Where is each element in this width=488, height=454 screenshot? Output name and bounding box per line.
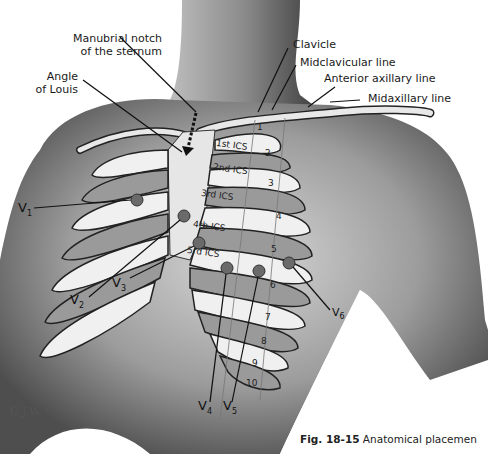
label-lead-v5: V5: [223, 398, 237, 416]
label-lead-v2: V2: [70, 292, 84, 310]
rib-number-10: 10: [246, 378, 257, 388]
figure-caption: Fig. 18-15 Anatomical placemen: [300, 433, 477, 445]
lead-name: V: [223, 398, 232, 413]
electrode-v5: [253, 265, 265, 277]
label-angle-line1: Angle: [30, 70, 78, 83]
lead-sub: 3: [121, 284, 126, 293]
rib-number-8: 8: [261, 336, 267, 346]
lead-sub: 1: [27, 209, 32, 218]
label-lead-v1: V1: [18, 200, 32, 218]
rib-number-1: 1: [257, 122, 263, 132]
label-clavicle: Clavicle: [293, 38, 336, 51]
lead-name: V: [18, 200, 27, 215]
rib-number-5: 5: [271, 244, 277, 254]
lead-sub: 5: [232, 407, 237, 416]
label-midclavicular-line: Midclavicular line: [300, 56, 396, 69]
rib-number-4: 4: [276, 211, 282, 221]
label-manubrial-line1: Manubrial notch: [66, 32, 162, 45]
torso-illustration: [0, 0, 488, 454]
lead-sub: 6: [340, 312, 345, 321]
rib-number-2: 2: [265, 148, 271, 158]
electrode-v4: [221, 262, 233, 274]
lead-name: V: [332, 306, 340, 319]
label-manubrial-notch: Manubrial notch of the sternum: [66, 32, 162, 58]
rib-number-3: 3: [268, 178, 274, 188]
artist-signature: G.J.W.: [10, 405, 42, 418]
lead-name: V: [70, 292, 79, 307]
label-lead-v6: V6: [332, 306, 345, 321]
label-anterior-axillary-line: Anterior axillary line: [324, 72, 435, 85]
electrode-v1: [131, 194, 143, 206]
label-midaxillary-line: Midaxillary line: [368, 92, 451, 105]
lead-name: V: [112, 275, 121, 290]
caption-number: Fig. 18-15: [300, 433, 360, 445]
ecg-lead-placement-figure: Manubrial notch of the sternum Angle of …: [0, 0, 488, 454]
neck: [170, 0, 320, 115]
label-manubrial-line2: of the sternum: [66, 45, 162, 58]
lead-name: V: [198, 398, 207, 413]
rib-number-6: 6: [270, 280, 276, 290]
lead-sub: 2: [79, 301, 84, 310]
label-lead-v4: V4: [198, 398, 212, 416]
caption-text: Anatomical placemen: [363, 433, 477, 445]
label-angle-of-louis: Angle of Louis: [30, 70, 78, 96]
lead-sub: 4: [207, 407, 212, 416]
rib-number-7: 7: [265, 312, 271, 322]
rib-number-9: 9: [252, 358, 258, 368]
label-lead-v3: V3: [112, 275, 126, 293]
label-angle-line2: of Louis: [30, 83, 78, 96]
